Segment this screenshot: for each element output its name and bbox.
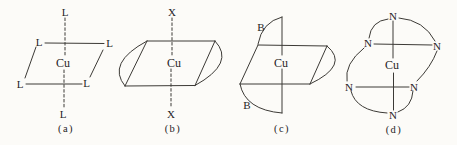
panel-b-caption: (b) [165,123,182,135]
panel-b: X X Cu (b) [119,6,222,135]
panel-b-disc-left-rim-arc [119,41,147,86]
panel-c-bottom-ligand-label: B [243,99,250,111]
panel-a-plane-top-right-ligand-label: L [106,37,113,49]
panel-d-bottom-nitrogen-label: N [389,109,397,121]
panel-d-top-right-backbone-arc [399,18,435,41]
panel-d-upper-right-nitrogen-label: N [433,40,441,52]
panel-c-plane-right-chord [310,46,327,84]
panel-b-metal-label: Cu [167,56,181,70]
panel-c-plane-left-edge [240,45,258,84]
panel-d-left-backbone-arc [347,48,364,81]
panel-b-disc-right-rim-arc [195,41,222,86]
panel-c-metal-label: Cu [274,56,288,70]
panel-a-plane-right-edge [90,50,103,77]
panel-a-plane-top-edge [45,43,104,44]
panel-c-plane-top-edge [258,45,327,46]
panel-d-lower-right-nitrogen-label: N [410,81,418,93]
panel-d: N N N N N N Cu (d) [345,10,441,136]
panel-a-axial-bottom-ligand-label: L [60,108,67,120]
panel-d-right-backbone-arc [417,51,437,81]
panel-d-top-nitrogen-label: N [389,10,397,22]
panel-d-lower-left-nitrogen-label: N [345,81,353,93]
panel-d-bottom-right-backbone-arc [398,91,413,112]
panel-c-caption: (c) [274,123,290,135]
panel-d-bottom-left-backbone-arc [351,91,387,113]
panel-a-caption: (a) [58,123,74,135]
panel-c: B B Cu (c) [240,17,335,135]
panel-a-plane-bottom-left-ligand-label: L [17,78,24,90]
panel-d-caption: (d) [386,124,403,136]
panel-a-plane-left-edge [25,47,36,78]
panel-d-top-left-backbone-arc [369,19,388,38]
panel-c-plane-right-rim-arc [310,46,335,84]
panel-a-metal-label: Cu [56,56,70,70]
coordination-geometry-figure: L L L L L L Cu (a) X X Cu (b) [0,0,457,145]
panel-a-plane-bottom-right-ligand-label: L [83,77,90,89]
panel-d-metal-label: Cu [385,58,399,72]
panel-a: L L L L L L Cu (a) [17,6,114,135]
panel-c-top-ligand-label: B [257,21,264,33]
panel-b-axial-bottom-ligand-label: X [167,108,175,120]
panel-d-upper-left-nitrogen-label: N [364,37,372,49]
panel-d-upper-n-n-line [374,44,432,45]
panel-b-axial-top-ligand-label: X [168,6,176,18]
figure-canvas: L L L L L L Cu (a) X X Cu (b) [0,0,457,145]
panel-b-disc-bottom-edge [125,86,195,87]
panel-a-plane-top-left-ligand-label: L [36,36,43,48]
panel-a-axial-top-ligand-label: L [62,6,69,18]
